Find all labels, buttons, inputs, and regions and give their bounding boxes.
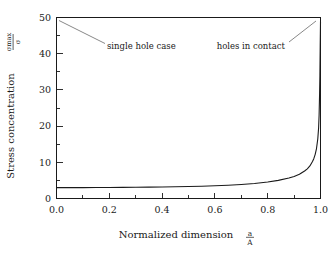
y-tick-label-10: 10 — [39, 157, 51, 168]
x-tick-label-1-0: 1.0 — [313, 204, 328, 215]
holes-in-contact-leader-line — [289, 21, 316, 42]
y-axis-fraction-denominator: σ — [14, 39, 22, 44]
holes-in-contact-label: holes in contact — [217, 41, 286, 51]
x-tick-label-0-4: 0.4 — [155, 204, 170, 215]
x-tick-label-0-0: 0.0 — [49, 204, 64, 215]
y-tick-label-50: 50 — [39, 12, 51, 23]
chart-figure: 0 10 20 30 40 50 0.0 0.2 0. — [0, 0, 335, 257]
y-tick-label-20: 20 — [39, 120, 51, 131]
x-axis-fraction-numerator: a — [248, 229, 253, 238]
y-tick-label-0: 0 — [45, 193, 51, 204]
single-hole-case-label: single hole case — [107, 41, 176, 51]
y-axis-minor-ticks — [57, 36, 61, 181]
x-tick-label-0-2: 0.2 — [102, 204, 117, 215]
annotation-single-hole-case: single hole case — [59, 21, 176, 51]
x-axis-fraction-denominator: A — [246, 238, 253, 247]
x-axis-title: Normalized dimension a A — [119, 229, 254, 247]
x-tick-label-0-8: 0.8 — [260, 204, 275, 215]
y-axis-title-text: Stress concentration — [5, 73, 16, 179]
stress-concentration-plot: 0 10 20 30 40 50 0.0 0.2 0. — [0, 0, 335, 257]
x-tick-label-0-6: 0.6 — [207, 204, 222, 215]
y-axis-tick-labels: 0 10 20 30 40 50 — [39, 12, 51, 204]
x-axis-title-fraction: a A — [246, 229, 254, 247]
y-axis-fraction-numerator: σmax — [5, 33, 13, 52]
y-axis-title: Stress concentration σmax σ — [5, 33, 22, 179]
x-axis-title-text: Normalized dimension — [119, 229, 234, 240]
x-axis-minor-ticks — [83, 195, 294, 199]
x-axis-tick-labels: 0.0 0.2 0.4 0.6 0.8 1.0 — [49, 204, 328, 215]
y-tick-label-40: 40 — [39, 48, 51, 59]
y-axis-title-fraction: σmax σ — [5, 33, 22, 52]
annotation-holes-in-contact: holes in contact — [217, 21, 316, 51]
single-hole-case-leader-line — [59, 21, 105, 44]
y-tick-label-30: 30 — [39, 84, 51, 95]
